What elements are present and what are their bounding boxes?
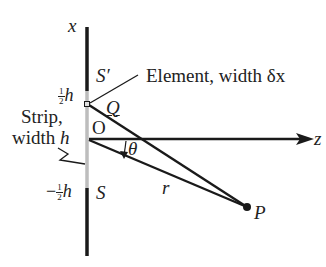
- x-axis-label: x: [68, 16, 76, 35]
- label-half-h: 12h: [58, 86, 74, 106]
- label-p: P: [254, 203, 266, 222]
- label-q: Q: [106, 98, 120, 117]
- element-label: Element, width δx: [146, 66, 285, 85]
- label-s-prime: S′: [96, 66, 110, 85]
- strip-label-line1: Strip,: [21, 107, 63, 126]
- strip-pointer-zigzag: [58, 148, 85, 164]
- label-r: r: [162, 178, 169, 197]
- label-neg-half-h: −12h: [46, 182, 72, 202]
- point-p-dot: [243, 203, 251, 211]
- label-origin-o: O: [92, 118, 106, 137]
- z-axis-label: z: [314, 129, 321, 148]
- strip-label-line2: width h: [12, 128, 70, 147]
- label-theta: θ: [128, 139, 137, 158]
- label-s: S: [96, 183, 106, 202]
- element-square: [85, 102, 90, 107]
